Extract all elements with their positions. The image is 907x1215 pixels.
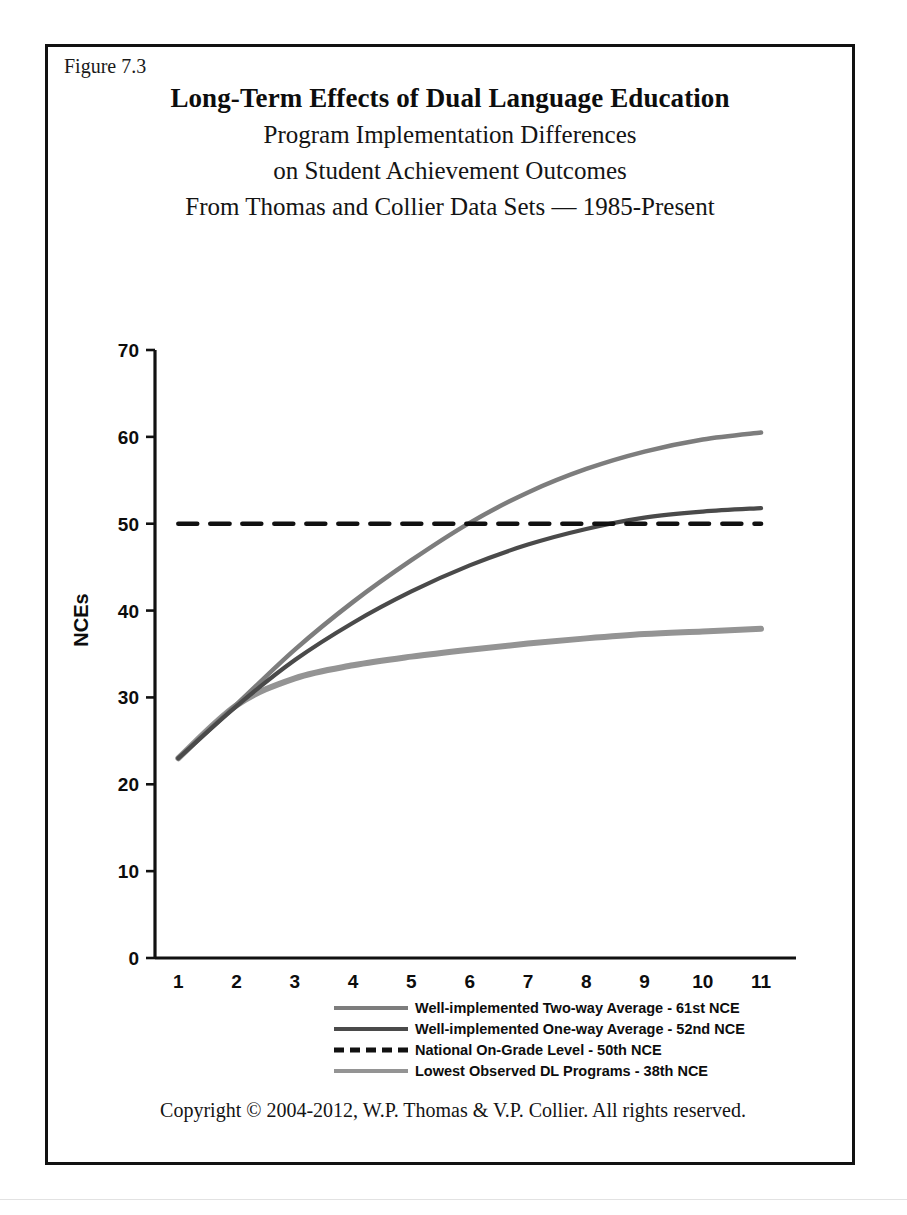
legend-item[interactable]: Lowest Observed DL Programs - 38th NCE	[48, 1060, 858, 1081]
chart-subtitle-line-1: Program Implementation Differences	[48, 119, 852, 151]
figure-number-label: Figure 7.3	[64, 55, 146, 78]
legend-item[interactable]: Well-implemented One-way Average - 52nd …	[48, 1018, 858, 1039]
chart-subtitle-line-2: on Student Achievement Outcomes	[48, 155, 852, 187]
legend-item-label: Well-implemented One-way Average - 52nd …	[415, 1021, 745, 1037]
copyright-notice: Copyright © 2004-2012, W.P. Thomas & V.P…	[48, 1099, 858, 1122]
x-tick-label: 11	[751, 971, 772, 990]
series-line	[178, 629, 761, 758]
x-tick-label: 4	[348, 971, 359, 990]
x-tick-label: 1	[173, 971, 184, 990]
x-tick-label: 6	[464, 971, 475, 990]
y-tick-label: 60	[118, 427, 139, 448]
legend-item[interactable]: Well-implemented Two-way Average - 61st …	[48, 997, 858, 1018]
y-tick-label: 70	[118, 340, 139, 361]
x-axis-ticks: 1234567891011	[173, 971, 771, 990]
x-tick-label: 9	[639, 971, 650, 990]
legend-line-swatch	[334, 1001, 408, 1015]
y-tick-label: 30	[118, 687, 139, 708]
chart-subtitle-line-3: From Thomas and Collier Data Sets — 1985…	[48, 191, 852, 223]
y-axis-ticks: 010203040506070	[118, 340, 155, 969]
legend-line-swatch	[334, 1022, 408, 1036]
plot-area: 010203040506070 1234567891011 Grade NCEs	[48, 290, 858, 990]
series-line	[178, 433, 761, 759]
x-tick-label: 5	[406, 971, 417, 990]
y-tick-label: 50	[118, 514, 139, 535]
legend-line-swatch	[334, 1043, 408, 1057]
x-tick-label: 3	[290, 971, 301, 990]
legend-line-swatch	[334, 1064, 408, 1078]
legend-item-label: National On-Grade Level - 50th NCE	[415, 1042, 662, 1058]
legend-item-label: Well-implemented Two-way Average - 61st …	[415, 1000, 740, 1016]
legend-item[interactable]: National On-Grade Level - 50th NCE	[48, 1039, 858, 1060]
series-layer	[178, 433, 761, 759]
y-tick-label: 0	[128, 948, 139, 969]
y-tick-label: 40	[118, 601, 139, 622]
y-tick-label: 10	[118, 861, 139, 882]
page-edge-divider	[0, 1199, 907, 1200]
chart-legend: Well-implemented Two-way Average - 61st …	[48, 997, 858, 1081]
figure-frame: Figure 7.3 Long-Term Effects of Dual Lan…	[45, 44, 855, 1165]
x-tick-label: 2	[231, 971, 242, 990]
x-tick-label: 7	[523, 971, 534, 990]
x-tick-label: 8	[581, 971, 592, 990]
x-tick-label: 10	[692, 971, 713, 990]
legend-item-label: Lowest Observed DL Programs - 38th NCE	[415, 1063, 708, 1079]
y-tick-label: 20	[118, 774, 139, 795]
chart-title: Long-Term Effects of Dual Language Educa…	[48, 83, 852, 115]
y-axis-title: NCEs	[70, 593, 92, 646]
line-chart-svg: 010203040506070 1234567891011 Grade NCEs	[48, 290, 858, 990]
title-block: Long-Term Effects of Dual Language Educa…	[48, 83, 852, 223]
